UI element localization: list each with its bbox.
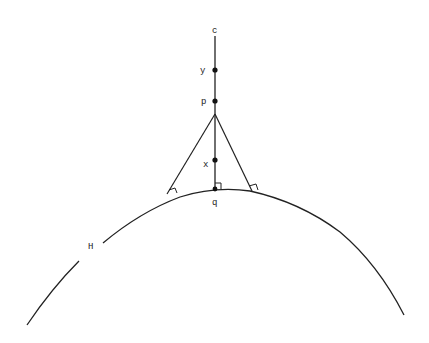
- label-y: y: [200, 66, 206, 76]
- point-x-dot: [212, 157, 217, 162]
- tangent-line-left: [167, 114, 215, 194]
- point-y-dot: [212, 67, 217, 72]
- label-c: c: [212, 26, 217, 36]
- point-p-dot: [212, 98, 217, 103]
- label-h: H: [88, 242, 93, 252]
- tangent-line-right: [215, 114, 252, 191]
- curve-h-main-segment: [103, 189, 404, 315]
- label-q: q: [212, 198, 217, 208]
- curve-h-left-segment: [27, 261, 79, 325]
- label-x: x: [203, 160, 208, 170]
- geometry-diagram: c y p x q H: [0, 0, 429, 343]
- label-p: p: [201, 97, 206, 107]
- point-q-dot: [213, 187, 218, 192]
